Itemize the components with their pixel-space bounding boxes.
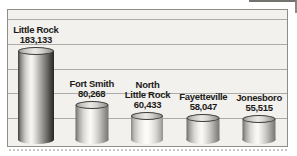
cylinder-top-cap xyxy=(75,101,108,109)
cylinder-top-cap xyxy=(187,114,220,122)
print-artifact-line xyxy=(9,149,287,151)
bar-label: Little Rock 183,133 xyxy=(0,25,73,45)
population-value: 183,133 xyxy=(0,35,73,45)
bar-group-fort-smith: Fort Smith 80,268 xyxy=(64,10,120,146)
bars-area: Little Rock 183,133 Fort Smith 80,268 xyxy=(8,10,287,146)
cylinder-body xyxy=(18,51,54,140)
cylinder-top-cap xyxy=(131,112,163,120)
bar-fayetteville xyxy=(187,118,220,140)
bar-group-little-rock: Little Rock 183,133 xyxy=(8,10,64,146)
bar-north-little-rock xyxy=(131,116,163,140)
population-bar-chart: Little Rock 183,133 Fort Smith 80,268 xyxy=(0,0,297,156)
population-value: 55,515 xyxy=(222,103,296,113)
bar-fort-smith xyxy=(75,105,108,140)
cylinder-body xyxy=(75,105,108,140)
chart-frame: Little Rock 183,133 Fort Smith 80,268 xyxy=(7,9,288,147)
bar-group-fayetteville: Fayetteville 58,047 xyxy=(175,10,231,146)
bar-jonesboro xyxy=(243,119,276,140)
bar-label: Jonesboro 55,515 xyxy=(222,93,296,113)
cylinder-top-cap xyxy=(243,115,276,123)
bar-group-jonesboro: Jonesboro 55,515 xyxy=(231,10,287,146)
cylinder-top-cap xyxy=(18,47,54,55)
bar-group-north-little-rock: North Little Rock 60,433 xyxy=(120,10,176,146)
bar-little-rock xyxy=(18,51,54,140)
